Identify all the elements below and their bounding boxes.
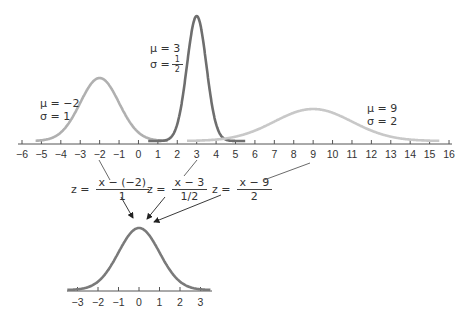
series2-sigma-label: σ = <box>150 58 170 71</box>
top-tick-label: 7 <box>271 148 277 160</box>
top-tick-label: −6 <box>16 148 28 160</box>
bottom-tick-label: −1 <box>113 296 125 308</box>
series2-sigma-fraction: 1 2 <box>172 55 183 74</box>
series1-params: μ = −2 σ = 1 <box>40 97 79 123</box>
series2-params: μ = 3 σ = 1 2 <box>150 42 183 74</box>
bottom-tick-label: −3 <box>72 296 84 308</box>
diagram-canvas <box>0 0 467 324</box>
top-tick-label: −1 <box>113 148 125 160</box>
series3-params: μ = 9 σ = 2 <box>367 102 397 128</box>
top-tick-label: 9 <box>310 148 316 160</box>
bottom-tick-label: 0 <box>136 296 142 308</box>
series3-sigma-label: σ = 2 <box>367 115 397 128</box>
top-tick-label: 15 <box>424 148 436 160</box>
bottom-tick-label: 3 <box>198 296 204 308</box>
top-tick-label: 8 <box>291 148 297 160</box>
top-tick-label: −2 <box>94 148 106 160</box>
top-tick-label: 14 <box>404 148 416 160</box>
series1-mu-label: μ = −2 <box>40 97 79 110</box>
series2-mu-label: μ = 3 <box>150 42 183 55</box>
transform-formula-1: z = x − (−2)1 <box>71 176 149 203</box>
series3-mu-label: μ = 9 <box>367 102 397 115</box>
curve-N(3,1/2) <box>148 16 245 141</box>
bottom-axis <box>67 228 212 291</box>
top-tick-label: 10 <box>327 148 339 160</box>
top-tick-label: 13 <box>385 148 397 160</box>
top-tick-label: 16 <box>443 148 455 160</box>
standard-normal-curve <box>67 228 210 290</box>
series1-sigma-label: σ = 1 <box>40 110 79 123</box>
top-tick-label: 11 <box>347 148 358 160</box>
transform-formula-3: z = x − 92 <box>212 176 272 203</box>
bottom-tick-label: 1 <box>157 296 163 308</box>
transform-formula-2: z = x − 31/2 <box>147 176 207 203</box>
top-tick-label: 5 <box>233 148 239 160</box>
top-tick-label: 4 <box>213 148 219 160</box>
top-tick-label: 3 <box>194 148 200 160</box>
top-tick-label: −3 <box>74 148 86 160</box>
top-tick-label: 6 <box>252 148 258 160</box>
bottom-tick-label: −2 <box>92 296 104 308</box>
bottom-tick-label: 2 <box>177 296 183 308</box>
top-tick-label: 12 <box>366 148 378 160</box>
top-tick-label: −5 <box>35 148 47 160</box>
top-tick-label: 1 <box>155 148 161 160</box>
top-tick-label: 2 <box>174 148 180 160</box>
top-tick-label: −4 <box>55 148 67 160</box>
curve-N(9,2) <box>187 109 439 141</box>
top-tick-label: 0 <box>136 148 142 160</box>
